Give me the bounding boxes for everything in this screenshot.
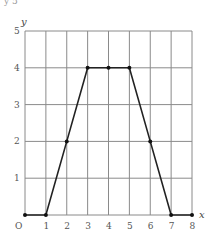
x-tick-label: 8 xyxy=(190,221,196,231)
cropped-header-text: y 5 xyxy=(3,0,18,6)
x-tick-label: 6 xyxy=(148,221,154,231)
x-tick-label: 2 xyxy=(64,221,70,231)
y-tick-label: 4 xyxy=(14,63,20,73)
y-tick-label: 2 xyxy=(14,136,20,146)
grid xyxy=(25,31,192,215)
x-tick-labels: 12345678 xyxy=(43,221,195,231)
y-tick-label: 3 xyxy=(14,100,20,110)
y-tick-labels: 12345 xyxy=(14,26,20,183)
y-tick-label: 5 xyxy=(14,26,20,36)
data-point xyxy=(86,66,90,70)
y-tick-label: 1 xyxy=(14,173,20,183)
y-axis-label: y xyxy=(20,16,27,27)
data-point xyxy=(65,139,69,143)
origin-label: O xyxy=(15,221,22,231)
x-tick-label: 3 xyxy=(85,221,91,231)
x-axis-label: x xyxy=(199,209,205,220)
data-point xyxy=(107,66,111,70)
data-point xyxy=(148,139,152,143)
data-point xyxy=(190,213,194,217)
x-tick-label: 7 xyxy=(169,221,175,231)
x-tick-label: 5 xyxy=(127,221,133,231)
data-point xyxy=(127,66,131,70)
data-point xyxy=(169,213,173,217)
data-point xyxy=(44,213,48,217)
x-tick-label: 1 xyxy=(43,221,49,231)
data-point xyxy=(23,213,27,217)
x-tick-label: 4 xyxy=(106,221,112,231)
line-chart: y 5 12345 12345678 y x O xyxy=(0,0,218,237)
